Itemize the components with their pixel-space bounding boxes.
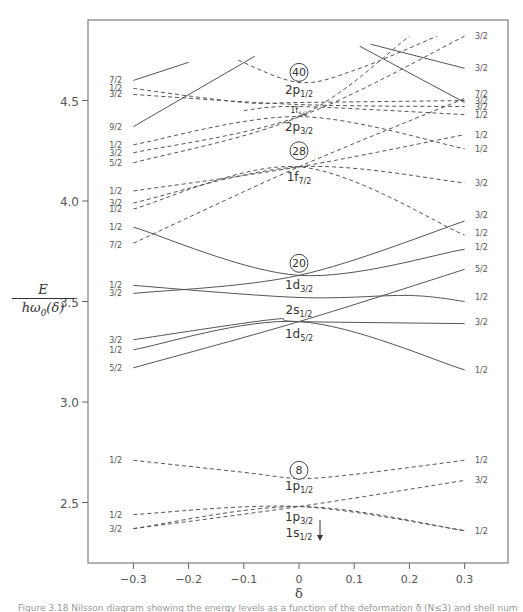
omega-label-right: 1/2 (475, 111, 488, 120)
orbital-label: 1p3/2 (285, 510, 313, 526)
y-axis-label: E hω0(δ) (8, 282, 78, 318)
omega-label-right: 5/2 (475, 265, 488, 274)
y-label-numerator: E (12, 282, 74, 299)
y-tick-label: 4.5 (60, 95, 79, 109)
omega-label-right: 3/2 (475, 64, 488, 73)
x-axis-label: δ (295, 586, 303, 601)
arrow-head-icon (317, 535, 323, 541)
level-line (238, 36, 437, 83)
omega-label-left: 7/2 (109, 241, 122, 250)
orbital-label: 1s1/2 (286, 526, 313, 542)
x-tick-label: 0.2 (401, 573, 419, 586)
omega-label-left: 1/2 (109, 187, 122, 196)
orbital-label: 2p1/2 (285, 83, 313, 99)
omega-label-right: 1/2 (475, 456, 488, 465)
y-label-denominator: hω0(δ) (8, 299, 78, 318)
omega-label-left: 3/2 (109, 336, 122, 345)
omega-label-right: 3/2 (475, 318, 488, 327)
omega-label-left: 9/2 (109, 123, 122, 132)
omega-label-left: 3/2 (109, 90, 122, 99)
level-line (371, 44, 465, 68)
y-tick-label: 3.0 (60, 396, 79, 410)
omega-label-right: 3/2 (475, 179, 488, 188)
figure-caption: Figure 3.18 Nilsson diagram showing the … (18, 603, 518, 612)
y-tick-label: 4.0 (60, 195, 79, 209)
omega-label-right: 1/2 (475, 145, 488, 154)
orbital-label: 2s1/2 (286, 303, 313, 319)
level-line (244, 106, 465, 114)
x-tick-label: 0.3 (456, 573, 474, 586)
x-tick-label: −0.1 (230, 573, 257, 586)
nilsson-diagram: 2.53.03.54.04.5 −0.3−0.2−0.100.10.20.3 7… (0, 0, 523, 612)
x-tick-label: −0.2 (175, 573, 202, 586)
omega-label-left: 1/2 (109, 346, 122, 355)
x-tick-label: −0.3 (120, 573, 147, 586)
x-tick-label: 0 (296, 573, 303, 586)
x-axis-ticks: −0.3−0.2−0.100.10.20.3 (120, 563, 473, 586)
magic-number-label: 20 (292, 257, 306, 270)
magic-number-label: 40 (292, 66, 306, 79)
omega-label-left: 1/2 (109, 511, 122, 520)
omega-label-right: 3/2 (475, 476, 488, 485)
omega-label-right: 1/2 (475, 131, 488, 140)
omega-label-left: 5/2 (109, 159, 122, 168)
y-tick-label: 2.5 (60, 497, 79, 511)
omega-label-left: 3/2 (109, 149, 122, 158)
x-tick-label: 0.1 (345, 573, 363, 586)
omega-label-right: 3/2 (475, 211, 488, 220)
omega-label-right: 1/2 (475, 293, 488, 302)
omega-label-left: 1/2 (109, 456, 122, 465)
orbital-label: 1p1/2 (285, 479, 313, 495)
omega-label-right: 1/2 (475, 366, 488, 375)
omega-label-left: 3/2 (109, 525, 122, 534)
omega-label-left: 1/2 (109, 223, 122, 232)
omega-label-left: 3/2 (109, 289, 122, 298)
magic-number-label: 8 (296, 464, 303, 477)
level-line (133, 56, 254, 126)
magic-number-label: 28 (292, 145, 306, 158)
omega-label-left: 5/2 (109, 364, 122, 373)
omega-label-right: 1/2 (475, 527, 488, 536)
orbital-label: 2p3/2 (285, 120, 313, 136)
level-line (133, 62, 188, 80)
level-line (133, 36, 409, 163)
omega-label-right: 1/2 (475, 243, 488, 252)
orbital-label: 1d3/2 (285, 278, 313, 294)
omega-label-left: 1/2 (109, 205, 122, 214)
omega-label-right: 1/2 (475, 229, 488, 238)
omega-label-right: 3/2 (475, 32, 488, 41)
orbital-label: 1f5/2 (290, 106, 308, 117)
orbital-label: 1f7/2 (287, 170, 312, 186)
orbital-label: 1d5/2 (285, 327, 313, 343)
